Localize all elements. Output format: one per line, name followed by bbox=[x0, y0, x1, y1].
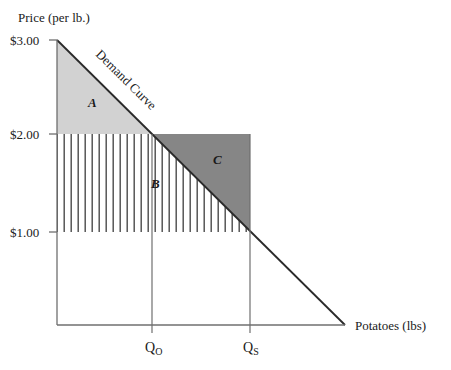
region-b-label: B bbox=[150, 176, 160, 191]
x-tick-label-qs-sub: S bbox=[253, 346, 259, 357]
economics-supply-demand-diagram: Price (per lb.) Potatoes (lbs) $3.00 $2.… bbox=[0, 0, 451, 370]
y-tick-label-3: $3.00 bbox=[10, 33, 39, 48]
x-axis-title: Potatoes (lbs) bbox=[355, 318, 426, 333]
y-axis-title: Price (per lb.) bbox=[18, 10, 90, 25]
x-tick-label-qo: QO bbox=[145, 340, 162, 357]
x-tick-label-qs: QS bbox=[243, 340, 259, 357]
region-c-label: C bbox=[213, 152, 222, 167]
chart-canvas: Price (per lb.) Potatoes (lbs) $3.00 $2.… bbox=[0, 0, 451, 370]
x-tick-label-qo-sub: O bbox=[155, 346, 162, 357]
region-a-label: A bbox=[87, 95, 97, 110]
x-tick-label-qo-base: Q bbox=[145, 340, 155, 355]
y-tick-label-2: $2.00 bbox=[10, 127, 39, 142]
y-tick-label-1: $1.00 bbox=[10, 225, 39, 240]
x-tick-label-qs-base: Q bbox=[243, 340, 253, 355]
